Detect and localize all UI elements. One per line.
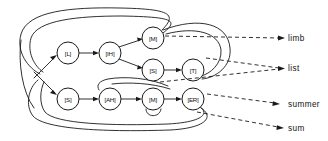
node-IH[interactable]: [IH]	[99, 42, 121, 64]
node-L-label: [L]	[65, 50, 72, 57]
arrowhead-limb	[278, 36, 285, 41]
arrowhead-S2-to-T	[176, 68, 182, 72]
node-S-middle-label: [S]	[150, 67, 157, 74]
node-M-top-label: [M]	[149, 35, 157, 42]
loopback-edge-left-strand	[20, 40, 34, 108]
edge-ER-to-summer	[207, 94, 275, 103]
edge-T-to-list	[206, 58, 279, 68]
node-S-bottom[interactable]: [S]	[57, 88, 79, 110]
arrowhead-AH-to-M2	[136, 97, 142, 101]
output-label-list: list	[288, 64, 300, 73]
node-ER[interactable]: [ER]	[182, 88, 204, 110]
node-T-label: [T]	[190, 67, 197, 74]
node-T[interactable]: [T]	[182, 59, 204, 81]
node-S-middle[interactable]: [S]	[142, 59, 164, 81]
graph-canvas: [L] [IH] [M] [S] [T] [S]	[0, 0, 328, 141]
node-M-bottom-label: [M]	[149, 96, 157, 103]
node-S-bottom-label: [S]	[65, 96, 72, 103]
arrowhead-summer	[272, 101, 280, 106]
arrowhead-start-to-S1	[50, 90, 57, 95]
arrowhead-start-to-L	[50, 55, 57, 60]
edge-ER-to-sum	[197, 112, 278, 127]
arrowhead-sum	[276, 125, 284, 130]
node-IH-label: [IH]	[106, 50, 115, 57]
output-label-sum: sum	[288, 124, 305, 133]
output-label-summer: summer	[288, 100, 320, 109]
loopback-edge-ah-hook-2	[112, 83, 170, 89]
dashed-output-edges	[160, 36, 285, 130]
arrowhead-list	[278, 66, 285, 71]
output-labels: limb list summer sum	[288, 34, 320, 133]
phoneme-network-diagram: [L] [IH] [M] [S] [T] [S]	[0, 0, 328, 141]
output-label-limb: limb	[288, 34, 305, 43]
node-M-top[interactable]: [M]	[142, 27, 164, 49]
arrowhead-L-to-IH	[93, 51, 99, 55]
edge-M-top-to-limb	[165, 36, 280, 38]
node-L[interactable]: [L]	[57, 42, 79, 64]
node-ER-label: [ER]	[187, 96, 199, 103]
arrowhead-S1-to-AH	[93, 97, 99, 101]
node-M-bottom[interactable]: [M]	[142, 88, 164, 110]
nodes: [L] [IH] [M] [S] [T] [S]	[57, 27, 204, 110]
node-AH-label: [AH]	[104, 96, 116, 103]
edge-start-to-S1	[34, 72, 55, 93]
arrowhead-M2-to-ER	[176, 97, 182, 101]
edge-IH-to-S2	[119, 59, 140, 67]
node-AH[interactable]: [AH]	[99, 88, 121, 110]
edge-IH-to-M1	[119, 40, 140, 47]
